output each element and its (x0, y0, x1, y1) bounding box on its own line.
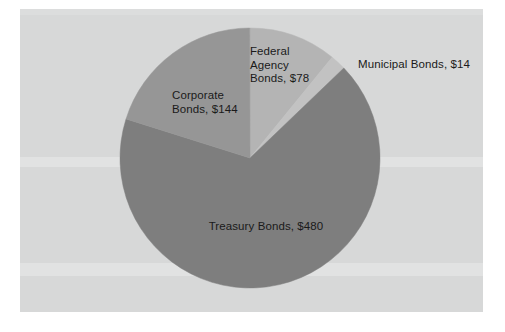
pie-label-corporate-bonds: Corporate Bonds, $144 (172, 89, 264, 116)
pie-chart: Federal Agency Bonds, $78 Municipal Bond… (20, 9, 483, 312)
pie-label-federal-agency-bonds: Federal Agency Bonds, $78 (250, 45, 328, 86)
pie-label-treasury-bonds: Treasury Bonds, $480 (192, 220, 340, 234)
pie-label-municipal-bonds: Municipal Bonds, $14 (358, 58, 488, 72)
chart-panel: Federal Agency Bonds, $78 Municipal Bond… (20, 9, 483, 312)
